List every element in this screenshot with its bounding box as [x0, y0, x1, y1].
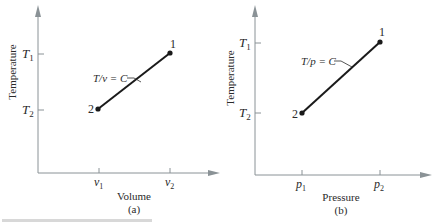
state-point-1 — [377, 39, 382, 44]
y-axis-arrow-icon — [35, 5, 41, 17]
panel-a: T1 T2 v1 v2 Volume (a) Temperature 1 2 T… — [6, 5, 220, 216]
x-axis-arrow-icon — [420, 172, 432, 178]
y-tick-label-T2: T2 — [22, 102, 34, 119]
relation-label: T/p = C — [301, 55, 337, 67]
y-axis-arrow-icon — [252, 5, 258, 17]
point-label-2: 2 — [88, 102, 94, 116]
process-line — [302, 42, 380, 113]
point-label-2: 2 — [292, 107, 298, 121]
point-label-1: 1 — [170, 37, 176, 51]
x-axis-arrow-icon — [208, 170, 220, 176]
y-axis-label: Temperature — [6, 44, 18, 100]
x-tick-label-p2: p2 — [373, 177, 384, 193]
panel-caption: (b) — [335, 204, 348, 217]
state-point-1 — [167, 50, 172, 55]
x-axis-label: Volume — [117, 190, 151, 202]
diagram-canvas: T1 T2 v1 v2 Volume (a) Temperature 1 2 T… — [0, 0, 438, 222]
leader-line — [334, 61, 352, 67]
y-tick-label-T2: T2 — [239, 105, 251, 122]
cropped-caption-fragment — [2, 219, 152, 222]
panel-b: T1 T2 p1 p2 Pressure (b) Temperature 1 2… — [224, 5, 432, 217]
x-tick-label-v1: v1 — [94, 175, 103, 191]
y-axis-label: Temperature — [224, 50, 236, 106]
x-tick-label-v2: v2 — [165, 175, 174, 191]
panel-caption: (a) — [128, 203, 141, 216]
state-point-2 — [95, 106, 100, 111]
x-axis-label: Pressure — [322, 191, 359, 203]
y-tick-label-T1: T1 — [239, 35, 251, 52]
state-point-2 — [299, 110, 304, 115]
y-tick-label-T1: T1 — [22, 46, 34, 63]
point-label-1: 1 — [379, 25, 385, 39]
x-tick-label-p1: p1 — [295, 177, 306, 193]
relation-label: T/v = C — [93, 72, 128, 84]
